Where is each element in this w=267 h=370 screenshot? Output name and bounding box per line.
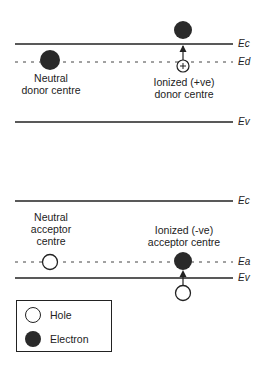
- level-label-ev-top: Ev: [238, 116, 250, 127]
- neutral-acceptor-hole-icon: [43, 255, 58, 270]
- legend-label-electron: Electron: [50, 333, 89, 345]
- legend-label-hole: Hole: [50, 309, 72, 321]
- ionized-donor-label-line1: Ionized (+ve): [148, 76, 220, 88]
- neutral-donor-electron-icon: [40, 50, 60, 70]
- hole-icon: [25, 307, 41, 323]
- level-label-ed: Ed: [238, 56, 250, 67]
- legend-item-hole: Hole: [25, 307, 72, 323]
- neutral-acceptor-label-line2: acceptor: [20, 223, 82, 235]
- acceptor-arrowhead-icon: [180, 270, 187, 277]
- ionized-donor-label: Ionized (+ve) donor centre: [148, 76, 220, 100]
- ionized-acceptor-label: Ionized (-ve) acceptor centre: [140, 224, 228, 248]
- level-label-ec-bottom: Ec: [238, 195, 250, 206]
- valence-hole-icon: [176, 286, 191, 301]
- neutral-donor-label: Neutral donor centre: [20, 72, 82, 96]
- electron-icon: [25, 331, 41, 347]
- excited-electron-icon: [174, 21, 192, 39]
- level-label-ev-bottom: Ev: [238, 272, 250, 283]
- legend-box: Hole Electron: [16, 300, 112, 352]
- donor-arrowhead-icon: [180, 45, 187, 52]
- neutral-acceptor-label-line1: Neutral: [20, 211, 82, 223]
- ionized-acceptor-label-line2: acceptor centre: [140, 236, 228, 248]
- legend-item-electron: Electron: [25, 331, 89, 347]
- level-label-ea: Ea: [238, 256, 250, 267]
- neutral-acceptor-label-line3: centre: [20, 235, 82, 247]
- neutral-donor-label-line2: donor centre: [20, 84, 82, 96]
- neutral-donor-label-line1: Neutral: [20, 72, 82, 84]
- captured-electron-icon: [174, 252, 192, 270]
- level-label-ec-top: Ec: [238, 38, 250, 49]
- ionized-acceptor-label-line1: Ionized (-ve): [140, 224, 228, 236]
- neutral-acceptor-label: Neutral acceptor centre: [20, 211, 82, 247]
- ionized-donor-label-line2: donor centre: [148, 88, 220, 100]
